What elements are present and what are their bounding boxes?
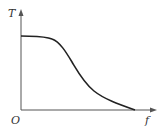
x-axis [21,108,157,113]
y-axis [19,9,24,110]
transmission-diagram: T O f [0,0,164,132]
origin-label: O [11,114,20,127]
response-curve [21,36,135,110]
x-axis-label: f [144,114,151,127]
x-axis-arrow-icon [150,108,157,113]
y-axis-label: T [8,7,17,20]
y-axis-arrow-icon [19,9,24,16]
